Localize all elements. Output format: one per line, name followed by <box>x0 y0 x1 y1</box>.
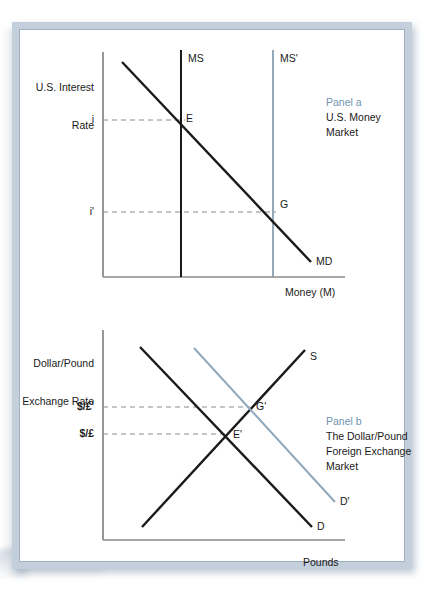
panel-b-caption-tag: Panel b <box>326 414 430 429</box>
panel-a-y-axis-label-line1: U.S. Interest <box>22 81 94 94</box>
panel-a-tick-i: i <box>68 113 94 126</box>
panel-a-caption-line1: U.S. Money <box>326 110 426 125</box>
panel-b-caption-line1: The Dollar/Pound <box>326 429 430 444</box>
point-label-e: E <box>186 112 193 125</box>
curve-label-ms: MS <box>188 52 204 65</box>
curve-label-md: MD <box>316 255 332 268</box>
panel-b-x-axis-label: Pounds <box>303 556 339 569</box>
point-label-e-prime: E' <box>233 428 242 441</box>
panel-b-tick-rate: $/£ <box>48 427 94 440</box>
panel-a-caption-tag: Panel a <box>326 95 426 110</box>
panel-a-tick-i-prime: i' <box>68 205 94 218</box>
curve-label-s: S <box>310 350 317 363</box>
panel-b-caption-line2: Foreign Exchange <box>326 444 430 459</box>
panel-a-caption: Panel a U.S. Money Market <box>326 95 426 140</box>
curve-label-d: D <box>317 520 325 533</box>
figure-root: U.S. Interest Rate i i' MS MS' MD E G Mo… <box>0 0 431 593</box>
curve-label-d-prime: D' <box>340 495 350 508</box>
panel-a-y-axis-label: U.S. Interest Rate <box>22 55 94 157</box>
point-label-g-prime: G' <box>256 400 266 413</box>
panel-b-tick-rate-prime: $/£' <box>48 400 94 413</box>
panel-a-x-axis-label: Money (M) <box>285 286 335 299</box>
curve-label-ms-prime: MS' <box>280 52 298 65</box>
point-label-g: G <box>280 198 288 211</box>
panel-b-caption-line3: Market <box>326 459 430 474</box>
panel-b-y-axis-label: Dollar/Pound Exchange Rate <box>14 331 94 433</box>
panel-b-y-axis-label-line1: Dollar/Pound <box>14 357 94 370</box>
panel-b-caption: Panel b The Dollar/Pound Foreign Exchang… <box>326 414 430 474</box>
panel-a-caption-line2: Market <box>326 125 426 140</box>
